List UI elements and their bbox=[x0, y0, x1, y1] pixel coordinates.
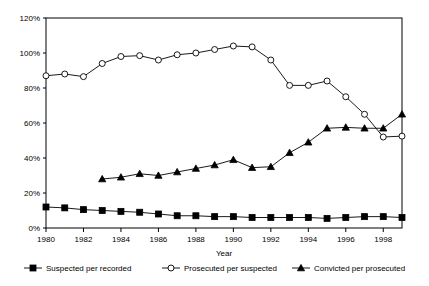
data-point-filled-triangle-icon bbox=[305, 139, 312, 145]
data-point-open-circle-icon bbox=[305, 82, 311, 88]
data-point-filled-square-icon bbox=[249, 215, 255, 221]
data-point-open-circle-icon bbox=[212, 47, 218, 53]
data-point-filled-triangle-icon bbox=[286, 149, 293, 155]
line-chart: 0%20%40%60%80%100%120%198019821984198619… bbox=[0, 0, 429, 286]
data-point-open-circle-icon bbox=[380, 134, 386, 140]
data-point-filled-square-icon bbox=[362, 214, 368, 220]
data-point-filled-square-icon bbox=[155, 211, 161, 217]
data-point-filled-square-icon bbox=[43, 204, 49, 210]
y-tick-label: 20% bbox=[24, 189, 40, 198]
x-tick-label: 1998 bbox=[374, 235, 392, 244]
data-point-filled-square-icon bbox=[62, 205, 68, 211]
data-point-open-circle-icon bbox=[137, 53, 143, 59]
data-point-open-circle-icon bbox=[268, 57, 274, 63]
legend-filled-square-icon bbox=[30, 265, 36, 271]
data-point-open-circle-icon bbox=[324, 78, 330, 84]
y-tick-label: 100% bbox=[20, 49, 40, 58]
y-tick-label: 80% bbox=[24, 84, 40, 93]
data-point-filled-square-icon bbox=[193, 213, 199, 219]
y-tick-label: 60% bbox=[24, 119, 40, 128]
data-point-filled-square-icon bbox=[399, 215, 405, 221]
x-tick-label: 1982 bbox=[75, 235, 93, 244]
data-point-filled-triangle-icon bbox=[136, 170, 143, 176]
plot-area-border bbox=[46, 18, 402, 228]
legend-label: Prosecuted per suspected bbox=[184, 264, 277, 273]
data-point-filled-square-icon bbox=[380, 214, 386, 220]
x-tick-label: 1980 bbox=[37, 235, 55, 244]
legend-item-2: Prosecuted per suspected bbox=[162, 264, 277, 273]
data-point-open-circle-icon bbox=[399, 133, 405, 139]
data-point-filled-square-icon bbox=[287, 215, 293, 221]
legend-item-1: Suspected per recorded bbox=[24, 264, 131, 273]
series-3 bbox=[99, 111, 406, 182]
data-point-open-circle-icon bbox=[174, 52, 180, 58]
data-point-open-circle-icon bbox=[43, 73, 49, 79]
data-point-filled-square-icon bbox=[212, 214, 218, 220]
series-1 bbox=[43, 204, 405, 221]
data-point-filled-triangle-icon bbox=[267, 163, 274, 169]
x-tick-label: 1994 bbox=[299, 235, 317, 244]
legend-open-circle-icon bbox=[168, 265, 174, 271]
data-point-open-circle-icon bbox=[80, 74, 86, 80]
data-point-filled-square-icon bbox=[305, 215, 311, 221]
data-point-filled-square-icon bbox=[99, 208, 105, 214]
x-tick-label: 1996 bbox=[337, 235, 355, 244]
data-point-open-circle-icon bbox=[249, 44, 255, 50]
series-line bbox=[46, 46, 402, 137]
data-point-open-circle-icon bbox=[155, 57, 161, 63]
data-point-open-circle-icon bbox=[193, 50, 199, 56]
x-tick-label: 1992 bbox=[262, 235, 280, 244]
data-point-filled-square-icon bbox=[118, 208, 124, 214]
legend-label: Convicted per prosecuted bbox=[314, 264, 405, 273]
data-point-open-circle-icon bbox=[230, 43, 236, 49]
data-point-filled-square-icon bbox=[174, 213, 180, 219]
x-axis-title: Year bbox=[216, 249, 233, 258]
data-point-open-circle-icon bbox=[287, 82, 293, 88]
chart-container: 0%20%40%60%80%100%120%198019821984198619… bbox=[0, 0, 429, 286]
data-point-filled-square-icon bbox=[230, 214, 236, 220]
data-point-open-circle-icon bbox=[362, 111, 368, 117]
x-tick-label: 1986 bbox=[150, 235, 168, 244]
series-2 bbox=[43, 43, 405, 140]
data-point-filled-triangle-icon bbox=[342, 124, 349, 130]
data-point-open-circle-icon bbox=[99, 61, 105, 67]
x-tick-label: 1988 bbox=[187, 235, 205, 244]
data-point-open-circle-icon bbox=[62, 71, 68, 77]
x-tick-label: 1990 bbox=[224, 235, 242, 244]
y-tick-label: 40% bbox=[24, 154, 40, 163]
y-tick-label: 120% bbox=[20, 14, 40, 23]
data-point-filled-square-icon bbox=[137, 209, 143, 215]
legend-item-3: Convicted per prosecuted bbox=[292, 264, 405, 273]
data-point-open-circle-icon bbox=[118, 54, 124, 60]
y-tick-label: 0% bbox=[28, 224, 40, 233]
data-point-filled-square-icon bbox=[324, 215, 330, 221]
data-point-filled-square-icon bbox=[268, 215, 274, 221]
x-tick-label: 1984 bbox=[112, 235, 130, 244]
data-point-filled-triangle-icon bbox=[398, 111, 405, 117]
data-point-filled-square-icon bbox=[80, 207, 86, 213]
data-point-filled-square-icon bbox=[343, 215, 349, 221]
legend-label: Suspected per recorded bbox=[46, 264, 131, 273]
data-point-open-circle-icon bbox=[343, 94, 349, 100]
data-point-filled-triangle-icon bbox=[230, 156, 237, 162]
